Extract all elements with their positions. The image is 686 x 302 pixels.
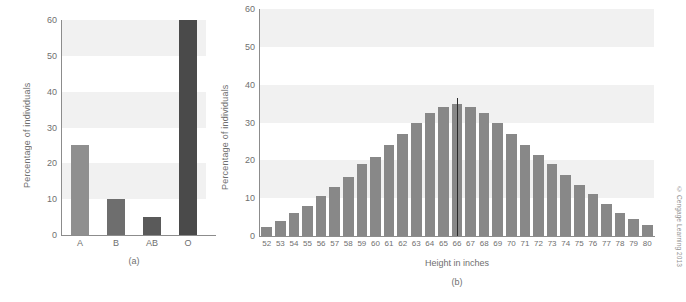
x-axis-tick-label: 54 (287, 239, 301, 248)
x-axis-tick-label: 52 (260, 239, 274, 248)
bar (438, 107, 449, 236)
x-axis-tick-label: 76 (586, 239, 600, 248)
x-axis-tick-label: 77 (600, 239, 614, 248)
bar (492, 123, 503, 237)
plot-area-a (62, 20, 206, 235)
bar (547, 164, 558, 236)
bar (615, 213, 626, 236)
bar (411, 123, 422, 237)
y-axis-tick-label: 20 (228, 155, 255, 165)
bar (261, 227, 272, 236)
x-axis-tick-label: B (98, 238, 134, 248)
figure-root: Percentage of individuals 0102030405060 … (0, 0, 686, 302)
bar (425, 113, 436, 236)
x-axis-line-b (259, 236, 655, 237)
y-axis-tick-label: 30 (228, 118, 255, 128)
x-axis-tick-label: 66 (450, 239, 464, 248)
bar (329, 187, 340, 236)
x-axis-line-a (61, 235, 216, 236)
y-axis-tick-label: 40 (228, 80, 255, 90)
bar (370, 157, 381, 236)
y-axis-line-a (61, 20, 62, 236)
bar (316, 196, 327, 236)
x-axis-tick-label: 61 (382, 239, 396, 248)
x-axis-tick-label: 70 (505, 239, 519, 248)
background-band (260, 9, 654, 47)
x-axis-tick-label: 64 (423, 239, 437, 248)
bar (302, 206, 313, 236)
y-axis-tick-label: 50 (30, 51, 57, 61)
bar (275, 221, 286, 236)
bar (397, 134, 408, 236)
bar (642, 225, 653, 236)
x-axis-tick-label: 71 (518, 239, 532, 248)
x-axis-tick-label: 72 (532, 239, 546, 248)
bar (506, 134, 517, 236)
bar (289, 213, 300, 236)
bar (520, 145, 531, 236)
median-marker-line (457, 98, 458, 236)
x-axis-tick-label: 68 (477, 239, 491, 248)
x-axis-tick-label: 58 (342, 239, 356, 248)
x-axis-title-b: Height in inches (260, 258, 654, 268)
y-axis-line-b (259, 9, 260, 236)
bar (384, 145, 395, 236)
bar (143, 217, 161, 235)
bar (560, 175, 571, 236)
bar (574, 185, 585, 236)
x-axis-tick-label: 56 (314, 239, 328, 248)
bar (179, 20, 197, 235)
x-axis-tick-label: 80 (640, 239, 654, 248)
y-axis-tick-label: 10 (30, 194, 57, 204)
y-axis-tick-label: 10 (228, 193, 255, 203)
y-axis-tick-label: 20 (30, 158, 57, 168)
x-axis-tick-label: 55 (301, 239, 315, 248)
y-axis-tick-label: 60 (30, 15, 57, 25)
x-axis-tick-label: 53 (274, 239, 288, 248)
x-axis-tick-label: 63 (409, 239, 423, 248)
bar (465, 107, 476, 236)
bar (357, 164, 368, 236)
x-axis-tick-label: 62 (396, 239, 410, 248)
x-axis-tick-label: O (170, 238, 206, 248)
x-axis-tick-label: 69 (491, 239, 505, 248)
panel-caption-a: (a) (62, 256, 206, 266)
bar (628, 219, 639, 236)
bar (343, 177, 354, 236)
bar (533, 155, 544, 236)
x-axis-tick-label: 74 (559, 239, 573, 248)
x-axis-tick-label: 73 (545, 239, 559, 248)
x-axis-tick-label: 78 (613, 239, 627, 248)
bar (479, 113, 490, 236)
bar (71, 145, 89, 235)
x-axis-tick-label: AB (134, 238, 170, 248)
x-axis-tick-label: A (62, 238, 98, 248)
x-axis-tick-label: 65 (437, 239, 451, 248)
y-axis-tick-label: 0 (30, 230, 57, 240)
y-axis-tick-label: 60 (228, 4, 255, 14)
y-axis-tick-label: 0 (228, 231, 255, 241)
copyright-notice: © Cengage Learning 2013 (676, 186, 683, 267)
x-axis-tick-label: 59 (355, 239, 369, 248)
y-axis-tick-label: 40 (30, 87, 57, 97)
bar (601, 204, 612, 236)
y-axis-tick-label: 30 (30, 123, 57, 133)
plot-area-b (260, 9, 654, 236)
x-axis-tick-label: 79 (627, 239, 641, 248)
x-axis-tick-label: 67 (464, 239, 478, 248)
chart-panel-a: Percentage of individuals 0102030405060 … (0, 0, 232, 302)
chart-panel-b: Percentage of individuals 0102030405060 … (214, 0, 686, 302)
panel-caption-b: (b) (260, 277, 654, 287)
bar (588, 194, 599, 236)
bar (107, 199, 125, 235)
y-axis-tick-label: 50 (228, 42, 255, 52)
x-axis-tick-label: 75 (572, 239, 586, 248)
x-axis-tick-label: 60 (369, 239, 383, 248)
x-axis-tick-label: 57 (328, 239, 342, 248)
